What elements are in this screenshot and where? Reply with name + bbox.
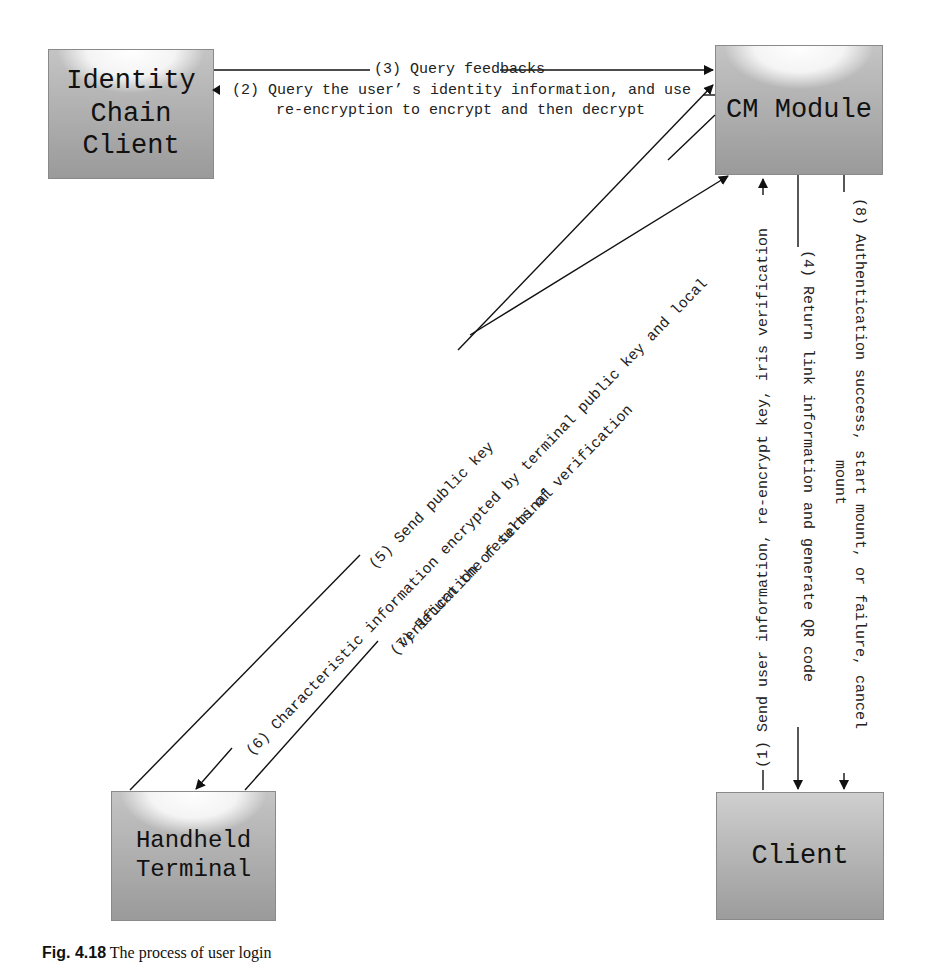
figure-caption-prefix: Fig. 4.18 <box>42 944 106 961</box>
message-2-label-line2: re-encryption to encrypt and then decryp… <box>276 102 645 119</box>
arrow-7 <box>245 641 378 790</box>
message-3-label: (3) Query feedbacks <box>374 61 545 78</box>
figure-caption-text: The process of user login <box>110 944 272 961</box>
message-4-label: (4) Return link information and generate… <box>799 250 816 682</box>
figure-caption: Fig. 4.18 The process of user login <box>42 944 271 962</box>
message-2-label-line1: (2) Query the user’ s identity informati… <box>232 82 691 99</box>
arrow-6 <box>668 115 715 160</box>
message-8-label-line2: mount <box>831 460 848 505</box>
message-8-label-line1: (8) Authentication success, start mount,… <box>851 198 868 729</box>
message-1-label: (1) Send user information, re-encrypt ke… <box>755 228 772 768</box>
